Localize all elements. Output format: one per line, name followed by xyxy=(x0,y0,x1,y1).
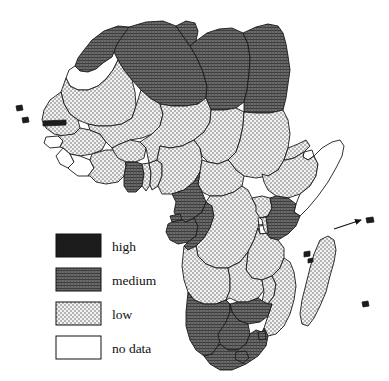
island-cape-verde-2 xyxy=(22,117,29,123)
island-cape-verde-1 xyxy=(16,105,23,111)
country-egypt xyxy=(243,24,290,113)
island-comoros-1 xyxy=(304,251,310,257)
legend-label-medium: medium xyxy=(112,273,157,288)
country-swaziland xyxy=(258,331,266,340)
legend-swatch-medium xyxy=(56,268,101,291)
legend-label-high: high xyxy=(112,239,136,254)
legend-label-no-data: no data xyxy=(112,341,151,356)
legend-swatch-high xyxy=(56,234,101,257)
island-comoros-2 xyxy=(308,258,313,263)
africa-choropleth-map: high medium low no data xyxy=(0,0,389,381)
country-gambia xyxy=(43,120,66,126)
legend-swatch-low xyxy=(56,302,101,325)
island-seychelles xyxy=(366,217,374,223)
island-mauritius xyxy=(362,301,369,307)
legend-swatch-no-data xyxy=(56,336,101,359)
figure-container: high medium low no data xyxy=(0,0,389,381)
country-ghana xyxy=(124,162,144,192)
legend-label-low: low xyxy=(112,307,133,322)
